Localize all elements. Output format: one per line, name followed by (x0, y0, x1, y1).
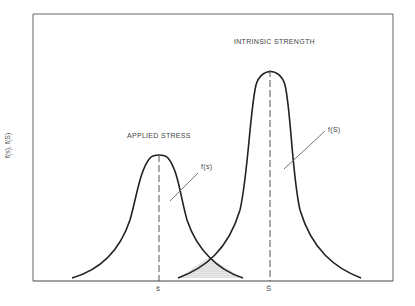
fS-label: f(S) (328, 126, 340, 133)
strength-mean-tick: S̄ (266, 284, 271, 293)
intrinsic-strength-title: INTRINSIC STRENGTH (234, 38, 315, 45)
applied-stress-title: APPLIED STRESS (127, 132, 191, 139)
diagram-canvas (0, 0, 415, 306)
fS-leader-line (284, 131, 325, 169)
y-axis-label: f(s), f(S) (4, 133, 11, 158)
stress-mean-tick: s̄ (156, 284, 160, 293)
plot-frame (33, 14, 393, 281)
applied-stress-curve (72, 155, 243, 278)
fs-leader-line (170, 173, 198, 201)
fs-label: f(s) (201, 163, 212, 170)
